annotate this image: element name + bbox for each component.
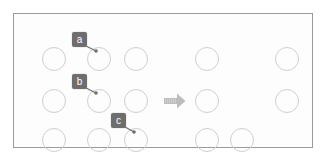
callout-badge-a: a bbox=[72, 32, 87, 47]
circle-r3c2 bbox=[87, 128, 111, 152]
diagram-panel: abc bbox=[13, 13, 313, 148]
circle-r2c1 bbox=[42, 89, 66, 113]
circle-r2c4 bbox=[195, 89, 219, 113]
circle-r3c1 bbox=[42, 128, 66, 152]
circle-r3c4 bbox=[195, 128, 219, 152]
callout-badge-b: b bbox=[72, 74, 87, 89]
circle-r1c5 bbox=[275, 47, 299, 71]
circle-r2c2 bbox=[87, 89, 111, 113]
circle-r1c2 bbox=[87, 47, 111, 71]
callout-badge-c: c bbox=[111, 113, 126, 128]
circle-r1c4 bbox=[195, 47, 219, 71]
circle-r2c5 bbox=[275, 89, 299, 113]
transform-arrow-icon bbox=[164, 93, 186, 109]
circle-r3c5 bbox=[230, 128, 254, 152]
circle-r1c3 bbox=[124, 47, 148, 71]
circle-r2c3 bbox=[124, 89, 148, 113]
circle-r3c3 bbox=[124, 128, 148, 152]
circle-r1c1 bbox=[42, 47, 66, 71]
diagram-canvas: abc bbox=[0, 0, 327, 161]
